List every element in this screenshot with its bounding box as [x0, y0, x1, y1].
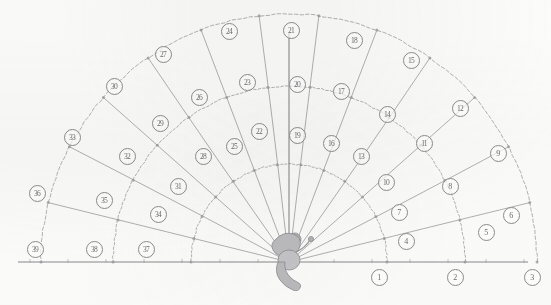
zone-label-25[interactable]: 25 — [226, 138, 243, 155]
zone-label-18[interactable]: 18 — [346, 32, 363, 49]
zone-label-2[interactable]: 2 — [447, 269, 464, 286]
zone-label-30[interactable]: 30 — [106, 78, 123, 95]
zone-label-12[interactable]: 12 — [452, 100, 469, 117]
zone-label-38[interactable]: 38 — [86, 241, 103, 258]
zone-label-37[interactable]: 37 — [138, 241, 155, 258]
zone-label-4[interactable]: 4 — [398, 233, 415, 250]
zone-label-22[interactable]: 22 — [251, 123, 268, 140]
zone-label-27[interactable]: 27 — [155, 46, 172, 63]
zone-label-1[interactable]: 1 — [371, 269, 388, 286]
zone-label-6[interactable]: 6 — [503, 207, 520, 224]
zone-label-26[interactable]: 26 — [191, 89, 208, 106]
zone-label-24[interactable]: 24 — [221, 23, 238, 40]
zone-label-5[interactable]: 5 — [478, 224, 495, 241]
zone-label-23[interactable]: 23 — [239, 74, 256, 91]
zone-label-36[interactable]: 36 — [29, 185, 46, 202]
zone-label-16[interactable]: 16 — [323, 135, 340, 152]
zone-label-35[interactable]: 35 — [96, 192, 113, 209]
zone-label-10[interactable]: 10 — [378, 174, 395, 191]
zone-label-33[interactable]: 33 — [64, 129, 81, 146]
zone-label-19[interactable]: 19 — [289, 127, 306, 144]
zone-label-14[interactable]: 14 — [379, 106, 396, 123]
zone-label-3[interactable]: 3 — [524, 269, 541, 286]
sector-grid-svg — [0, 0, 551, 305]
zone-label-7[interactable]: 7 — [391, 204, 408, 221]
zone-label-13[interactable]: 13 — [353, 148, 370, 165]
zone-label-15[interactable]: 15 — [403, 52, 420, 69]
zone-label-21[interactable]: 21 — [283, 22, 300, 39]
zone-label-11[interactable]: 11 — [416, 135, 433, 152]
zone-label-20[interactable]: 20 — [289, 76, 306, 93]
zone-label-17[interactable]: 17 — [333, 83, 350, 100]
zone-label-29[interactable]: 29 — [152, 115, 169, 132]
zone-label-8[interactable]: 8 — [442, 178, 459, 195]
zone-label-39[interactable]: 39 — [27, 241, 44, 258]
zone-label-28[interactable]: 28 — [195, 148, 212, 165]
zone-label-31[interactable]: 31 — [170, 178, 187, 195]
diagram-canvas: 1234567891011121314151617181920212223242… — [0, 0, 551, 305]
zone-label-32[interactable]: 32 — [119, 148, 136, 165]
zone-label-9[interactable]: 9 — [490, 145, 507, 162]
zone-label-34[interactable]: 34 — [150, 206, 167, 223]
